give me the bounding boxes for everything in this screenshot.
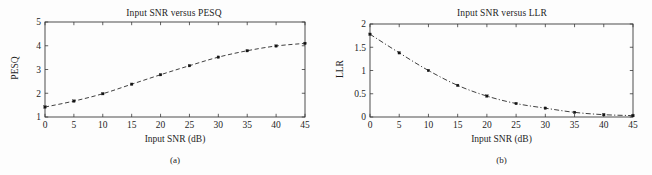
x-tick-label: 15 (453, 120, 463, 130)
x-tick-label: 0 (368, 120, 373, 130)
x-tick-label: 15 (127, 120, 137, 130)
plot-area-a: 05101520253035404512345 (0, 0, 326, 175)
y-tick-label: 2 (36, 89, 41, 99)
x-axis-label-b: Input SNR (dB) (370, 134, 633, 144)
x-tick-label: 10 (98, 120, 108, 130)
data-point-marker (188, 64, 191, 67)
chart-panel-a: Input SNR versus PESQ 051015202530354045… (0, 0, 326, 175)
data-point-marker (603, 113, 606, 116)
data-point-marker (275, 45, 278, 48)
x-tick-label: 45 (300, 120, 310, 130)
data-point-marker (515, 102, 518, 105)
x-tick-label: 30 (541, 120, 551, 130)
x-tick-label: 30 (214, 120, 224, 130)
y-axis-label-a: PESQ (10, 53, 20, 82)
plot-area-b: 05101520253035404500.511.52 (326, 0, 652, 175)
data-point-marker (369, 33, 372, 36)
data-point-marker (159, 73, 162, 76)
data-point-marker (217, 56, 220, 59)
data-point-marker (456, 84, 459, 87)
x-tick-label: 25 (511, 120, 521, 130)
chart-panel-b: Input SNR versus LLR 0510152025303540450… (326, 0, 652, 175)
panel-caption-b: (b) (370, 155, 633, 165)
x-tick-label: 40 (271, 120, 281, 130)
data-point-marker (486, 95, 489, 98)
data-series-line (45, 43, 305, 107)
data-point-marker (398, 52, 401, 55)
x-tick-label: 10 (424, 120, 434, 130)
data-series-line (370, 34, 633, 115)
x-tick-label: 5 (397, 120, 402, 130)
y-tick-label: 1.5 (354, 43, 366, 53)
y-tick-label: 4 (36, 41, 41, 51)
data-point-marker (44, 106, 47, 109)
x-tick-label: 20 (482, 120, 492, 130)
x-tick-label: 20 (156, 120, 166, 130)
data-point-marker (427, 69, 430, 72)
y-tick-label: 1 (36, 112, 41, 122)
y-tick-label: 0.5 (354, 89, 366, 99)
x-axis-label-a: Input SNR (dB) (45, 134, 305, 144)
data-point-marker (246, 49, 249, 52)
figure-two-panel-charts: Input SNR versus PESQ 051015202530354045… (0, 0, 652, 175)
data-point-marker (102, 92, 105, 95)
x-tick-label: 0 (43, 120, 48, 130)
y-tick-label: 2 (361, 19, 366, 29)
y-tick-label: 5 (36, 17, 41, 27)
data-point-marker (130, 83, 133, 86)
x-tick-label: 25 (185, 120, 195, 130)
data-point-marker (304, 42, 307, 45)
x-tick-label: 40 (599, 120, 609, 130)
data-point-marker (73, 100, 76, 103)
data-point-marker (544, 107, 547, 110)
x-tick-label: 45 (628, 120, 638, 130)
y-tick-label: 3 (36, 65, 41, 75)
x-tick-label: 5 (72, 120, 77, 130)
x-tick-label: 35 (242, 120, 252, 130)
y-tick-label: 1 (361, 66, 366, 76)
data-point-marker (573, 111, 576, 114)
x-tick-label: 35 (570, 120, 580, 130)
y-tick-label: 0 (361, 112, 366, 122)
data-point-marker (632, 114, 635, 117)
panel-caption-a: (a) (45, 155, 305, 165)
y-axis-label-b: LLR (335, 55, 345, 83)
